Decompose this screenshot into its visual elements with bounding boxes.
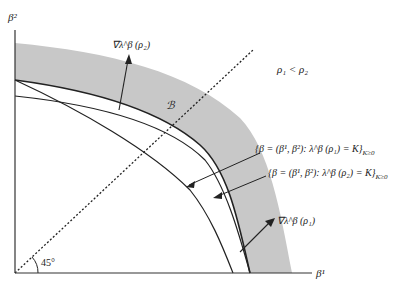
level-set-sub-rho2: K≥0: [376, 173, 388, 181]
y-axis-label: β²: [8, 12, 17, 23]
level-set-label-rho2: {β = (β¹, β²): λ^β (ρ₂) = K}K≥0: [268, 168, 388, 181]
x-axis-label: β¹: [316, 268, 325, 279]
region-label: ℬ: [166, 100, 175, 111]
angle-arc: [32, 257, 38, 273]
level-set-sub-rho1: K≥0: [363, 149, 375, 157]
inequality-label: ρ₁ < ρ₂: [277, 64, 308, 75]
shaded-region-b: [15, 43, 292, 273]
level-set-label-rho1: {β = (β¹, β²): λ^β (ρ₁) = K}K≥0: [255, 144, 375, 157]
gradient-label-rho2: ∇λ^β (ρ₂): [112, 40, 150, 50]
level-set-text-rho2: {β = (β¹, β²): λ^β (ρ₂) = K}: [268, 167, 376, 178]
arrowhead-icon: [186, 181, 195, 188]
arrowhead-icon: [213, 192, 222, 199]
level-set-text-rho1: {β = (β¹, β²): λ^β (ρ₁) = K}: [255, 143, 363, 154]
gradient-label-rho1: ∇λ^β (ρ₁): [277, 216, 315, 226]
arrowhead-icon: [125, 54, 132, 64]
angle-label: 45°: [41, 258, 55, 268]
